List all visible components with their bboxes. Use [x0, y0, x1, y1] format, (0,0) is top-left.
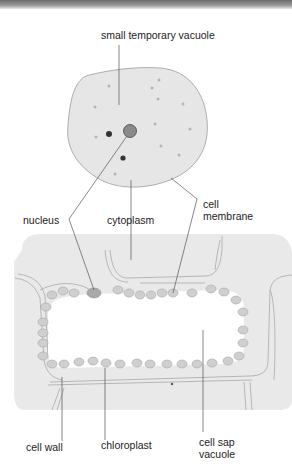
label-nucleus: nucleus [23, 214, 59, 226]
label-cell-membrane-2: membrane [203, 210, 253, 222]
label-chloroplast: chloroplast [101, 439, 152, 451]
label-cell-sap-1: cell sap [199, 436, 235, 448]
nucleus-shape [124, 125, 137, 138]
label-cell-membrane-1: cell [203, 198, 219, 210]
label-small-temporary-vacuole: small temporary vacuole [101, 29, 215, 41]
cell-diagram [0, 0, 292, 468]
label-cell-sap-2: vacuole [199, 448, 235, 460]
animal-cell [68, 68, 208, 187]
label-cell-wall: cell wall [26, 441, 63, 453]
label-cytoplasm: cytoplasm [107, 214, 154, 226]
plant-cell [14, 234, 292, 410]
